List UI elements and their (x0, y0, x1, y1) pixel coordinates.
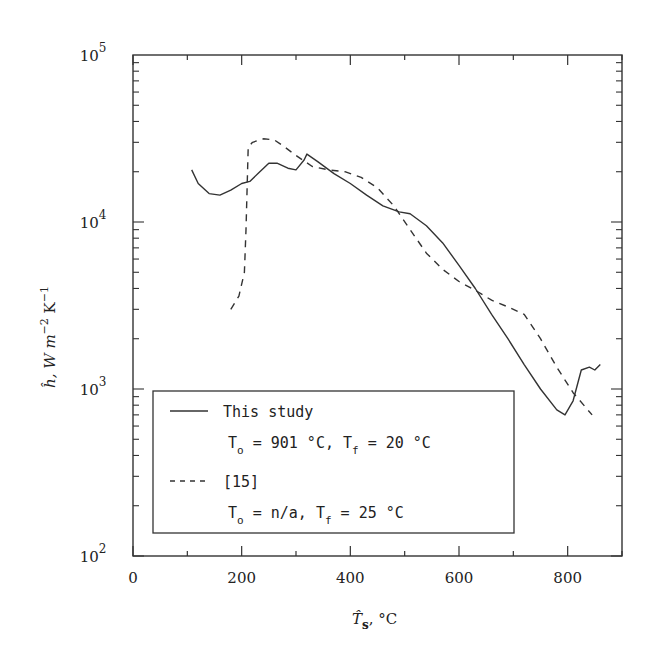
x-tick-label: 400 (336, 569, 365, 587)
x-tick-label: 600 (445, 569, 474, 587)
series-lines (192, 139, 601, 415)
legend-label-this-study: This study (223, 403, 313, 421)
y-tick-label: 105 (80, 41, 107, 65)
legend-label-ref-15: [15] (223, 473, 259, 491)
series-ref-15-line (231, 139, 592, 415)
series-this-study-line (192, 154, 601, 415)
x-axis-label: T̂s, °C (352, 610, 397, 632)
chart: 0200400600800102103104105 This study To … (0, 0, 652, 664)
legend: This study To = 901 °C, Tf = 20 °C [15] … (153, 391, 514, 533)
x-tick-label: 800 (553, 569, 582, 587)
x-tick-label: 200 (227, 569, 256, 587)
y-axis-label: ĥ, W m−2 K−1 (38, 286, 59, 388)
y-tick-label: 102 (80, 542, 107, 566)
x-tick-label: 0 (128, 569, 138, 587)
y-tick-label: 103 (80, 375, 107, 399)
y-tick-label: 104 (80, 208, 107, 232)
